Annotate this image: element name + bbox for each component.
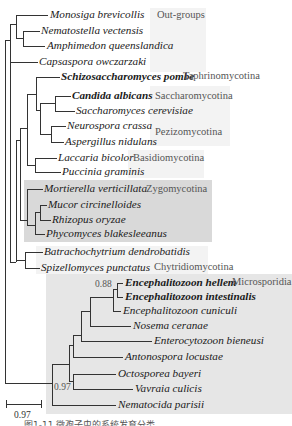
taxon-label: Candida albicans	[72, 90, 153, 101]
group-label-zygomycotina: Zygomycotina	[146, 184, 207, 195]
taxon-label: Vavraia culicis	[135, 383, 202, 394]
taxon-label: Rhizopus oryzae	[52, 214, 126, 225]
figure-caption: 图1-11 微孢子虫的系统发育分类	[24, 418, 155, 426]
taxon-label: Amphimedon queenslandica	[47, 40, 173, 51]
taxon-label: Encephalitozoon cuniculi	[123, 305, 237, 316]
phylogenetic-tree-figure: Monosiga brevicollis Nematostella vecten…	[0, 0, 292, 426]
taxon-label: Schizosaccharomyces pombe	[61, 71, 194, 82]
taxon-label: Neurospora crassa	[67, 120, 152, 131]
group-label-taphrinomycotina: Taphrinomycotina	[183, 71, 260, 82]
taxon-label: Nematostella vectensis	[41, 25, 143, 36]
taxon-label: Puccinia graminis	[62, 166, 144, 177]
group-label-pezizomycotina: Pezizomycotina	[155, 127, 222, 138]
taxon-label: Encephalitozoon hellem	[125, 277, 237, 288]
taxon-label: Nosema ceranae	[133, 320, 208, 331]
taxon-label: Spizellomyces punctatus	[41, 262, 150, 273]
taxon-label: Octosporea bayeri	[118, 368, 201, 379]
taxon-label: Batrachochytrium dendrobatidis	[44, 246, 190, 257]
support-value: 0.88	[95, 280, 112, 290]
taxon-label: Encephalitozoon intestinalis	[125, 291, 256, 302]
taxon-label: Saccharomyces cerevisiae	[76, 105, 193, 116]
taxon-label: Monosiga brevicollis	[50, 9, 144, 20]
taxon-label: Mucor circinelloides	[48, 199, 141, 210]
taxon-label: Antonospora locustae	[125, 351, 223, 362]
group-label-chytridiomycotina: Chytridiomycotina	[154, 262, 233, 273]
group-label-basidiomycotina: Basidiomycotina	[133, 153, 204, 164]
taxon-label: Aspergillus nidulans	[65, 136, 157, 147]
group-label-microsporidia: Microsporidia	[232, 277, 292, 288]
support-value: 0.97	[54, 383, 71, 393]
taxon-label: Enterocytozoon bieneusi	[154, 335, 264, 346]
taxon-label: Nematocida parisii	[118, 399, 204, 410]
taxon-label: Laccaria bicolor	[58, 152, 134, 163]
group-label-saccharomycotina: Saccharomycotina	[155, 91, 233, 102]
taxon-label: Mortierella verticillata	[44, 183, 147, 194]
taxon-label: Phycomyces blakesleeanus	[46, 228, 167, 239]
taxon-label: Capsaspora owczarzaki	[39, 56, 146, 67]
group-label-outgroups: Out-groups	[157, 10, 205, 21]
